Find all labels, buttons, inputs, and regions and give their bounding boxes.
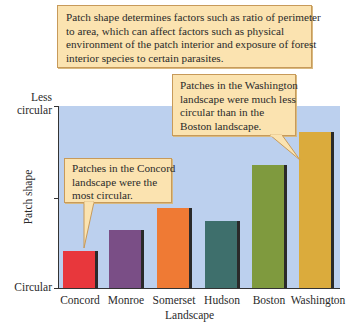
bar-washington: [299, 132, 331, 288]
y-tick-mid: [54, 198, 59, 199]
callout-line: Patch shape determines factors such as r…: [66, 11, 311, 25]
annotation-callout-concord: Patches in the Concord landscape were th…: [64, 158, 172, 203]
bar-boston: [252, 165, 284, 288]
annotation-callout-patch-shape: Patch shape determines factors such as r…: [57, 5, 312, 68]
callout-line: to area, which can affect factors such a…: [66, 25, 311, 39]
y-label-line: circular: [4, 104, 52, 117]
y-label-line: Less: [4, 91, 52, 104]
callout-line: environment of the patch interior and ex…: [66, 38, 311, 52]
y-tick-bottom: [54, 288, 59, 289]
y-axis-title: Patch shape: [22, 170, 34, 225]
callout-line: Patches in the Washington: [180, 79, 295, 93]
callout-line: landscape were the: [72, 176, 171, 190]
annotation-callout-washington: Patches in the Washington landscape were…: [172, 74, 296, 136]
callout-line: Patches in the Concord: [72, 162, 171, 176]
x-label-washington: Washington: [288, 294, 348, 306]
callout-line: landscape were much less: [180, 93, 295, 107]
y-tick-top: [54, 106, 59, 107]
bar-monroe: [109, 230, 141, 288]
y-label-circular: Circular: [0, 281, 52, 294]
callout-line: Boston landscape.: [180, 120, 295, 134]
callout-line: interior species to certain parasites.: [66, 52, 311, 66]
callout-line: circular than in the: [180, 106, 295, 120]
callout-line: most circular.: [72, 189, 171, 203]
x-axis-title: Landscape: [165, 309, 214, 321]
bar-hudson: [205, 221, 237, 288]
bar-concord: [63, 251, 95, 288]
x-axis-line: [58, 288, 340, 289]
bar-somerset: [157, 208, 189, 288]
y-label-less-circular: Less circular: [4, 91, 52, 117]
